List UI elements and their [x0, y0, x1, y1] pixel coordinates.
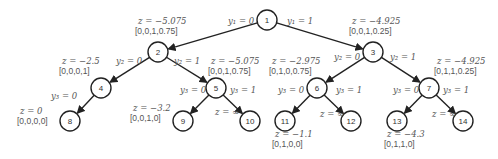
edge-5-9 [191, 95, 209, 113]
node-annotation-12: z = ∞ [319, 109, 344, 119]
node-id: 13 [393, 117, 402, 126]
edge-label: y₃ = 0 [392, 85, 420, 95]
objective-value: z = −1.1 [274, 129, 313, 139]
edge-label: y₂ = 1 [389, 52, 416, 62]
tree-node-10: 10 [240, 111, 260, 131]
edge-label: y₁ = 0 [227, 16, 255, 26]
solution-vector: [0,1,0,0.75] [269, 66, 312, 76]
node-id: 14 [459, 117, 468, 126]
node-annotation-6: z = −2.975[0,1,0,0.75] [269, 56, 320, 76]
tree-node-8: 8 [60, 111, 80, 131]
edge-label: y₃ = 1 [229, 85, 256, 95]
node-id: 1 [265, 16, 270, 25]
edge-label: y₃ = 0 [277, 85, 305, 95]
solution-vector: [0,0,1,0] [130, 113, 161, 123]
node-id: 12 [347, 117, 356, 126]
edge-label: y₃ = 0 [179, 85, 207, 95]
node-annotation-13: z = −4.3[0,1,1,0] [384, 129, 425, 149]
node-id: 3 [371, 48, 376, 57]
edge-6-11 [293, 95, 310, 113]
node-id: 5 [214, 84, 219, 93]
node-id: 4 [99, 84, 104, 93]
tree-node-1: 1 [257, 10, 277, 30]
solution-vector: [0,1,0,0] [272, 139, 303, 149]
node-annotation-7: z = −4.925[0,1,1,0.25] [434, 56, 485, 76]
objective-value: z = ∞ [214, 107, 239, 117]
node-id: 8 [68, 117, 73, 126]
tree-node-3: 3 [363, 42, 383, 62]
node-id: 6 [315, 84, 320, 93]
objective-value: z = ∞ [319, 109, 344, 119]
node-annotation-9: z = −3.2[0,0,1,0] [130, 103, 171, 123]
objective-value: z = 0 [19, 106, 43, 116]
node-id: 10 [246, 117, 255, 126]
solution-vector: [0,0,1,0.25] [349, 26, 392, 36]
tree-node-2: 2 [148, 42, 168, 62]
edge-label: y₃ = 0 [50, 91, 78, 101]
edge-label: y₃ = 1 [335, 85, 362, 95]
edge-label: y₂ = 0 [333, 52, 361, 62]
node-id: 7 [427, 84, 432, 93]
node-annotation-3: z = −4.925[0,0,1,0.25] [349, 16, 400, 36]
objective-value: z = −2.5 [61, 56, 100, 66]
tree-node-6: 6 [307, 78, 327, 98]
objective-value: z = −2.975 [271, 56, 320, 66]
objective-value: z = ∞ [431, 109, 456, 119]
solution-vector: [0,1,1,0.25] [434, 66, 477, 76]
solution-vector: [0,0,1,0.75] [135, 26, 178, 36]
node-id: 11 [281, 117, 290, 126]
branch-and-bound-tree: 1234567891011121314 y₁ = 0y₁ = 1y₂ = 0y₂… [0, 0, 498, 159]
edge-7-13 [405, 95, 422, 113]
edge-label: y₃ = 1 [442, 85, 469, 95]
node-annotation-5: z = −5.075[0,0,1,0.75] [208, 56, 259, 76]
node-annotation-4: z = −2.5[0,0,0,1] [59, 56, 100, 76]
tree-node-4: 4 [91, 78, 111, 98]
node-annotation-10: z = ∞ [214, 107, 239, 117]
tree-node-11: 11 [275, 111, 295, 131]
tree-node-9: 9 [173, 111, 193, 131]
node-id: 2 [156, 48, 161, 57]
node-annotation-14: z = ∞ [431, 109, 456, 119]
node-annotation-2: z = −5.075[0,0,1,0.75] [135, 16, 186, 36]
solution-vector: [0,0,1,0.75] [208, 66, 251, 76]
solution-vector: [0,0,0,1] [59, 66, 90, 76]
objective-value: z = −4.925 [436, 56, 485, 66]
tree-node-5: 5 [206, 78, 226, 98]
edge-1-2 [169, 23, 258, 49]
objective-value: z = −5.075 [137, 16, 186, 26]
edge-label: y₁ = 1 [286, 16, 313, 26]
objective-value: z = −4.3 [386, 129, 425, 139]
node-annotation-8: z = 0[0,0,0,0] [17, 106, 48, 126]
objective-value: z = −5.075 [210, 56, 259, 66]
objective-value: z = −3.2 [132, 103, 171, 113]
node-id: 9 [181, 117, 186, 126]
edge-4-8 [78, 95, 95, 113]
node-annotation-11: z = −1.1[0,1,0,0] [272, 129, 313, 149]
solution-vector: [0,1,1,0] [384, 139, 415, 149]
edge-label: y₂ = 1 [173, 56, 200, 66]
edge-label: y₂ = 0 [115, 56, 143, 66]
tree-node-7: 7 [419, 78, 439, 98]
objective-value: z = −4.925 [351, 16, 400, 26]
tree-node-13: 13 [387, 111, 407, 131]
solution-vector: [0,0,0,0] [17, 116, 48, 126]
